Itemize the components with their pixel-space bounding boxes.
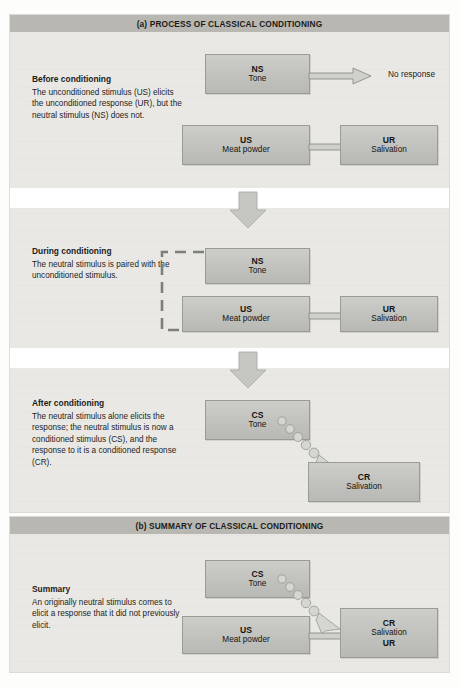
before-body: The unconditioned stimulus (US) elicits … (32, 88, 182, 120)
box-us-summary-word: Meat powder (222, 635, 269, 645)
after-caption: After conditioning The neutral stimulus … (32, 398, 182, 469)
arrow-ns-noresponse (309, 66, 381, 86)
box-us-before-word: Meat powder (222, 145, 269, 155)
box-cs-summary-word: Tone (249, 579, 267, 589)
panel-summary: (b) SUMMARY OF CLASSICAL CONDITIONING Su… (10, 517, 449, 672)
summary-caption: Summary An originally neutral stimulus c… (32, 584, 182, 631)
box-ns-during-word: Tone (249, 266, 267, 276)
box-ns-during-abbr: NS (252, 256, 264, 266)
panel-process: (a) PROCESS OF CLASSICAL CONDITIONING Be… (10, 15, 449, 512)
box-ur-before-abbr: UR (383, 135, 395, 145)
box-ur-during: UR Salivation (340, 296, 438, 332)
box-cs-after-word: Tone (249, 420, 267, 430)
box-ns-before: NS Tone (205, 54, 310, 94)
after-heading: After conditioning (32, 398, 182, 410)
box-us-before-abbr: US (240, 135, 252, 145)
box-us-before: US Meat powder (182, 125, 310, 165)
box-us-during-abbr: US (240, 304, 252, 314)
box-ur-during-abbr: UR (383, 304, 395, 314)
box-cs-after-abbr: CS (252, 410, 264, 420)
box-cs-summary-abbr: CS (252, 569, 264, 579)
box-cr-ur-summary-abbr: CR (383, 618, 395, 628)
box-us-summary-abbr: US (240, 625, 252, 635)
panel-a-header: (a) PROCESS OF CLASSICAL CONDITIONING (10, 15, 449, 32)
summary-heading: Summary (32, 584, 182, 596)
box-cr-after: CR Salivation (308, 462, 420, 502)
box-cr-ur-summary: CR Salivation UR (340, 608, 438, 658)
box-ns-before-word: Tone (249, 74, 267, 84)
box-ur-before-word: Salivation (371, 145, 407, 155)
summary-body: An originally neutral stimulus comes to … (32, 598, 179, 630)
section-after-conditioning: After conditioning The neutral stimulus … (10, 368, 449, 512)
box-ns-during: NS Tone (205, 248, 310, 284)
after-body: The neutral stimulus alone elicits the r… (32, 412, 176, 467)
box-cr-after-abbr: CR (358, 472, 370, 482)
section-summary: Summary An originally neutral stimulus c… (10, 534, 449, 672)
before-caption: Before conditioning The unconditioned st… (32, 74, 182, 121)
during-body: The neutral stimulus is paired with the … (32, 260, 169, 281)
box-ur-during-word: Salivation (371, 314, 407, 324)
section-before-conditioning: Before conditioning The unconditioned st… (10, 32, 449, 188)
label-no-response: No response (388, 69, 435, 79)
box-cr-ur-summary-abbr2: UR (383, 638, 395, 648)
before-heading: Before conditioning (32, 74, 182, 86)
box-us-summary: US Meat powder (182, 616, 310, 654)
section-during-conditioning: During conditioning The neutral stimulus… (10, 208, 449, 348)
box-cr-after-word: Salivation (346, 482, 382, 492)
panel-b-header: (b) SUMMARY OF CLASSICAL CONDITIONING (10, 517, 449, 534)
panel-b-title: (b) SUMMARY OF CLASSICAL CONDITIONING (136, 521, 324, 531)
box-ns-before-abbr: NS (252, 64, 264, 74)
panel-a-title: (a) PROCESS OF CLASSICAL CONDITIONING (137, 19, 323, 29)
box-us-during-word: Meat powder (222, 314, 269, 324)
box-ur-before: UR Salivation (340, 125, 438, 165)
box-us-during: US Meat powder (182, 296, 310, 332)
box-cr-ur-summary-word: Salivation (371, 628, 407, 638)
figure-classical-conditioning: (a) PROCESS OF CLASSICAL CONDITIONING Be… (0, 0, 459, 688)
